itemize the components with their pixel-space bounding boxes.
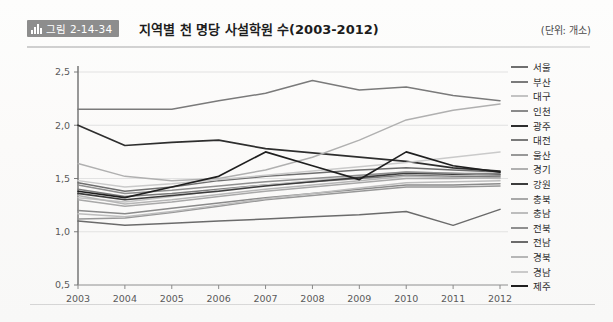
legend-swatch-강원	[511, 183, 528, 185]
legend-label: 대구	[533, 89, 551, 103]
y-axis-tick-label: 1,5	[55, 173, 70, 184]
legend-label: 제주	[533, 279, 551, 293]
legend-item-울산[interactable]: 울산	[511, 148, 551, 163]
footer-divider	[30, 304, 595, 305]
legend-swatch-부산	[511, 81, 528, 83]
x-axis-tick-label: 2005	[160, 293, 184, 304]
page-title: 지역별 천 명당 사설학원 수(2003-2012)	[139, 19, 379, 38]
legend-swatch-경북	[511, 256, 528, 258]
y-axis-tick-label: 1,0	[55, 226, 70, 237]
legend-item-광주[interactable]: 광주	[511, 118, 551, 133]
legend-swatch-울산	[511, 154, 528, 156]
legend-swatch-전북	[511, 227, 528, 229]
legend-label: 경기	[533, 162, 551, 176]
x-axis-tick-label: 2010	[394, 293, 418, 304]
y-axis-tick-label: 2,0	[55, 120, 70, 131]
legend-label: 충남	[533, 206, 551, 220]
x-axis-tick-label: 2003	[66, 293, 90, 304]
legend-label: 인천	[533, 104, 551, 118]
legend-item-충남[interactable]: 충남	[511, 206, 551, 221]
legend-item-부산[interactable]: 부산	[511, 75, 551, 90]
legend-label: 경남	[533, 265, 551, 279]
legend-item-대구[interactable]: 대구	[511, 89, 551, 104]
legend-label: 광주	[533, 119, 551, 133]
legend-swatch-광주	[511, 125, 528, 127]
legend-swatch-대전	[511, 139, 528, 141]
series-line-대전	[78, 81, 500, 110]
legend-label: 서울	[533, 60, 551, 74]
unit-label: (단위: 개소)	[541, 22, 591, 37]
legend-swatch-대구	[511, 95, 528, 97]
y-axis-tick-label: 2,5	[55, 66, 70, 77]
legend-item-경북[interactable]: 경북	[511, 250, 551, 265]
x-axis-tick-label: 2012	[488, 293, 512, 304]
figure-number-label: 그림 2-14-34	[46, 21, 112, 36]
legend-swatch-충북	[511, 198, 528, 200]
legend-label: 경북	[533, 250, 551, 264]
legend-label: 전남	[533, 235, 551, 249]
x-axis-tick-label: 2004	[113, 293, 137, 304]
legend-label: 부산	[533, 75, 551, 89]
legend-item-인천[interactable]: 인천	[511, 104, 551, 119]
figure-number-badge: 그림 2-14-34	[27, 20, 119, 37]
x-axis-tick-label: 2006	[207, 293, 231, 304]
legend-item-대전[interactable]: 대전	[511, 133, 551, 148]
legend-label: 울산	[533, 148, 551, 162]
x-axis-tick-label: 2009	[347, 293, 371, 304]
legend-label: 전북	[533, 221, 551, 235]
legend-item-경기[interactable]: 경기	[511, 162, 551, 177]
legend-swatch-충남	[511, 212, 528, 214]
legend-item-경남[interactable]: 경남	[511, 264, 551, 279]
legend-item-제주[interactable]: 제주	[511, 279, 551, 294]
legend-item-서울[interactable]: 서울	[511, 60, 551, 75]
legend-item-충북[interactable]: 충북	[511, 191, 551, 206]
legend-swatch-경기	[511, 168, 528, 170]
header-divider	[27, 46, 590, 48]
bar-chart-icon	[31, 23, 42, 34]
legend-item-강원[interactable]: 강원	[511, 177, 551, 192]
legend-swatch-제주	[511, 285, 528, 287]
x-axis-tick-label: 2011	[441, 293, 465, 304]
x-axis-tick-label: 2007	[253, 293, 277, 304]
legend-item-전북[interactable]: 전북	[511, 221, 551, 236]
legend-label: 강원	[533, 177, 551, 191]
legend-item-전남[interactable]: 전남	[511, 235, 551, 250]
y-axis-tick-label: 0,5	[55, 279, 70, 290]
legend-swatch-경남	[511, 271, 528, 273]
legend-label: 충북	[533, 192, 551, 206]
legend-swatch-인천	[511, 110, 528, 112]
legend-swatch-전남	[511, 241, 528, 243]
chart-legend: 서울부산대구인천광주대전울산경기강원충북충남전북전남경북경남제주	[511, 60, 551, 294]
legend-label: 대전	[533, 133, 551, 147]
legend-swatch-서울	[511, 66, 528, 68]
x-axis-tick-label: 2008	[300, 293, 324, 304]
figure-header: 그림 2-14-34 지역별 천 명당 사설학원 수(2003-2012) (단…	[0, 0, 613, 52]
